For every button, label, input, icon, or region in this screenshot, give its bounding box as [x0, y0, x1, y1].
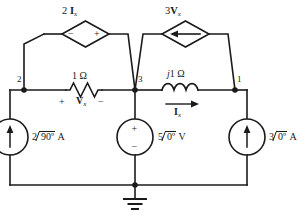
resistor-voltage-label: Vx — [76, 96, 86, 108]
node-label-2: 2 — [17, 75, 22, 84]
current-source-left-circle — [0, 119, 28, 155]
junction-dot-node1 — [232, 87, 238, 93]
junction-dot-ground — [132, 182, 138, 188]
junction-dot-node2 — [21, 87, 27, 93]
voltage-source-mid-plus-sign: + — [132, 124, 138, 134]
wire-node2-to-left-diamond — [24, 34, 44, 90]
voltage-source-mid-value: 50º V — [158, 131, 186, 142]
dependent-voltage-source-plus-sign: + — [94, 29, 100, 39]
dependent-voltage-source-label: 2 Ix — [62, 6, 77, 18]
inductor-current-arrow-head — [191, 101, 199, 108]
resistor-minus-sign: − — [98, 97, 104, 107]
inductor-current-label: Ix — [174, 107, 181, 119]
dependent-current-source-label: 3Vx — [165, 6, 181, 18]
inductor-value-label: j1 Ω — [167, 69, 185, 79]
inductor-symbol — [162, 84, 198, 90]
voltage-source-mid-minus-sign: − — [132, 142, 138, 152]
circuit-diagram: 2 Ix − + 3Vx 2 3 1 1 Ω + Vx − j1 Ω Ix 29… — [0, 0, 305, 222]
current-source-left-value: 290º A — [32, 131, 65, 142]
wire-right-diamond-to-node1 — [209, 34, 235, 90]
dependent-voltage-source-minus-sign: − — [68, 29, 74, 39]
junction-dot-node3 — [132, 87, 138, 93]
resistor-value-label: 1 Ω — [72, 71, 87, 81]
resistor-plus-sign: + — [59, 97, 65, 107]
resistor-symbol — [66, 83, 102, 97]
node-label-3: 3 — [138, 75, 143, 84]
circuit-schematic-canvas — [0, 0, 305, 222]
node-label-1: 1 — [237, 75, 242, 84]
wire-left-diamond-to-node3 — [109, 34, 135, 90]
current-source-right-value: 30º A — [269, 131, 297, 142]
